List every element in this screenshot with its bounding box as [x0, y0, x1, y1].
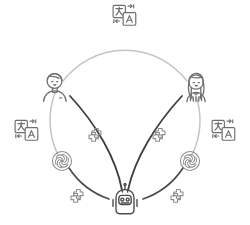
ring-arc-right-upper — [192, 93, 200, 155]
connector-person-left-to-robot — [70, 96, 122, 190]
robot-icon[interactable] — [113, 184, 137, 214]
connector-person-right-to-robot — [128, 96, 182, 190]
connection-ring — [50, 50, 200, 199]
isometric-plus-icon-lower-left[interactable] — [71, 189, 83, 202]
diagram-canvas: Speaker A Speaker B AI Assistant Languag… — [0, 0, 250, 225]
isometric-plus-icon-upper-left[interactable] — [89, 128, 101, 141]
translate-icon-left[interactable] — [15, 120, 38, 141]
person-long-hair-icon[interactable] — [187, 73, 205, 101]
translate-icon-right[interactable] — [212, 120, 235, 141]
translate-icon-top[interactable] — [113, 5, 136, 26]
ring-arc-top — [63, 50, 187, 81]
ring-arc-left-lower — [69, 168, 109, 199]
openai-spiral-icon-right[interactable] — [180, 151, 199, 170]
openai-spiral-icon-left[interactable] — [52, 151, 71, 170]
connector-group — [70, 96, 182, 190]
communication-loop-diagram — [0, 0, 250, 225]
isometric-plus-icon-lower-right[interactable] — [171, 189, 183, 202]
person-short-hair-icon[interactable] — [44, 74, 67, 102]
ring-arc-left-upper — [50, 93, 58, 155]
ring-arc-right-lower — [143, 168, 183, 199]
